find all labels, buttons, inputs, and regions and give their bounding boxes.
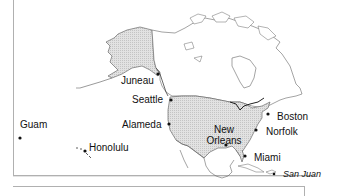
city-dot-juneau[interactable] xyxy=(156,72,159,75)
city-label-juneau: Juneau xyxy=(121,75,154,86)
canada-region xyxy=(152,18,302,108)
city-label-guam: Guam xyxy=(20,119,47,130)
city-dot-guam[interactable] xyxy=(18,136,21,139)
florida xyxy=(236,150,244,162)
city-label-new-orleans: New Orleans xyxy=(203,124,245,146)
city-label-norfolk: Norfolk xyxy=(266,126,298,137)
arctic-island xyxy=(212,12,230,22)
city-label-alameda: Alameda xyxy=(122,119,161,130)
map-canvas xyxy=(0,0,340,196)
city-label-seattle: Seattle xyxy=(132,94,163,105)
city-label-boston: Boston xyxy=(277,111,308,122)
city-dot-alameda[interactable] xyxy=(167,122,170,125)
city-label-san-juan: San Juan xyxy=(283,169,321,180)
city-dot-san-juan[interactable] xyxy=(273,173,276,176)
city-label-new-orleans-line2: Orleans xyxy=(203,135,245,146)
alaska-region xyxy=(106,27,160,78)
city-dot-boston[interactable] xyxy=(266,112,269,115)
cuba xyxy=(238,164,264,172)
city-dot-honolulu[interactable] xyxy=(83,149,86,152)
aleutian-islands xyxy=(80,78,112,88)
map-frame: Juneau Seattle Alameda Guam Honolulu New… xyxy=(0,0,340,196)
city-label-new-orleans-line1: New xyxy=(203,124,245,135)
city-dot-miami[interactable] xyxy=(243,154,246,157)
city-dot-seattle[interactable] xyxy=(169,98,172,101)
city-label-miami: Miami xyxy=(254,152,281,163)
city-dot-norfolk[interactable] xyxy=(254,128,257,131)
city-label-honolulu: Honolulu xyxy=(89,142,128,153)
